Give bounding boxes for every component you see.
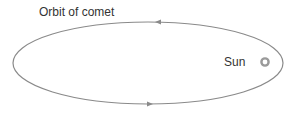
orbit-diagram [0, 0, 297, 114]
orbit-arrow-bottom-icon [147, 102, 153, 107]
sun-label: Sun [224, 55, 245, 69]
orbit-arrow-top-icon [155, 20, 161, 25]
sun-icon [261, 58, 268, 65]
